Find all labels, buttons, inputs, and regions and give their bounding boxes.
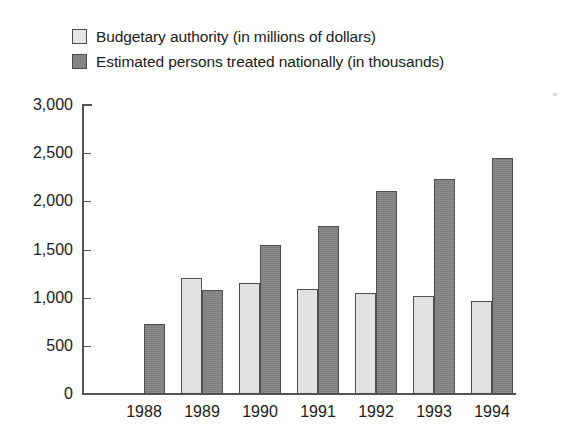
x-axis-tick-label: 1993 (416, 403, 452, 421)
bar-group: 1988 (123, 105, 165, 394)
bar-persons-treated (318, 226, 339, 394)
x-axis-tick-label: 1989 (184, 403, 220, 421)
bar-persons-treated (260, 245, 281, 394)
x-axis-tick-label: 1990 (242, 403, 278, 421)
bar-persons-treated (376, 191, 397, 394)
y-axis-tick-label: 3,000 (33, 96, 73, 114)
y-axis-tick (82, 153, 91, 154)
bar-persons-treated (434, 179, 455, 394)
x-axis-tick-label: 1988 (126, 403, 162, 421)
y-axis-tick-label: 1,500 (33, 241, 73, 259)
bar-group: 1993 (413, 105, 455, 394)
legend-item-persons-treated: Estimated persons treated nationally (in… (72, 49, 552, 74)
chart-legend: Budgetary authority (in millions of doll… (72, 24, 552, 74)
bar-group: 1990 (239, 105, 281, 394)
y-axis-tick-label: 2,000 (33, 192, 73, 210)
x-axis-tick-label: 1994 (474, 403, 510, 421)
y-axis-tick-label: 2,500 (33, 144, 73, 162)
x-axis-tick-label: 1991 (300, 403, 336, 421)
legend-label-persons-treated: Estimated persons treated nationally (in… (96, 53, 444, 71)
dark-gray-swatch-icon (72, 54, 87, 69)
bar-persons-treated (144, 324, 165, 394)
bar-group: 1991 (297, 105, 339, 394)
bar-group: 1994 (471, 105, 513, 394)
bar-budgetary-authority (181, 278, 202, 394)
y-axis-tick (82, 298, 91, 299)
legend-label-budgetary-authority: Budgetary authority (in millions of doll… (96, 28, 376, 46)
y-axis-tick-label: 0 (64, 385, 73, 403)
bar-group: 1992 (355, 105, 397, 394)
bar-budgetary-authority (413, 296, 434, 394)
y-axis-tick (82, 201, 91, 202)
y-axis-tick-label: 500 (46, 337, 73, 355)
bar-budgetary-authority (355, 293, 376, 394)
legend-item-budgetary-authority: Budgetary authority (in millions of doll… (72, 24, 552, 49)
y-axis-tick-label: 1,000 (33, 289, 73, 307)
bar-persons-treated (492, 158, 513, 394)
plot-area: 05001,0001,5002,0002,5003,000 1988198919… (82, 105, 515, 394)
bar-group: 1989 (181, 105, 223, 394)
light-gray-swatch-icon (72, 29, 87, 44)
bar-budgetary-authority (297, 289, 318, 394)
bar-chart-figure: Budgetary authority (in millions of doll… (0, 0, 572, 444)
x-axis-tick-label: 1992 (358, 403, 394, 421)
scan-artifact (553, 93, 557, 96)
y-axis-tick (82, 250, 91, 251)
y-axis-tick (82, 346, 91, 347)
bar-budgetary-authority (471, 301, 492, 394)
bar-budgetary-authority (239, 283, 260, 394)
bar-persons-treated (202, 290, 223, 394)
